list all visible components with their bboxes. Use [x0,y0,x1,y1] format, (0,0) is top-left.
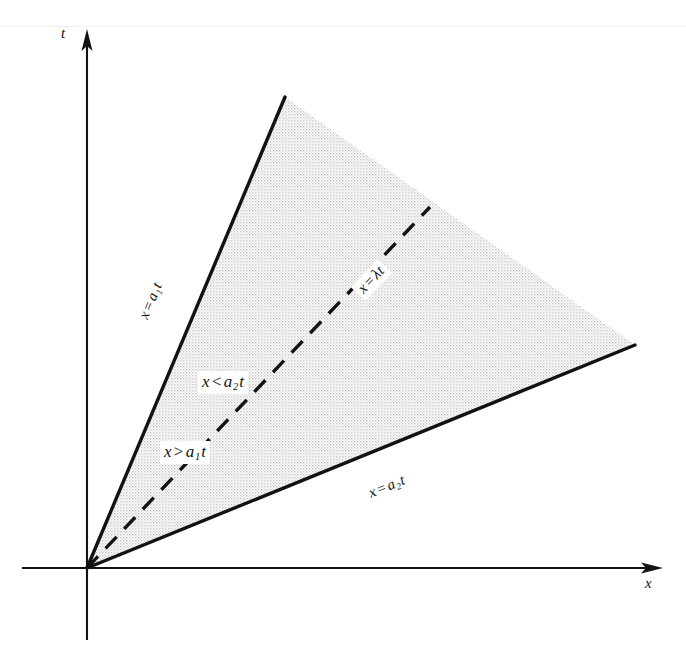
shaded-wedge-region [87,97,635,568]
upper-inequality-coef: a [224,372,233,391]
upper-inequality-lhs: x [202,372,210,391]
upper-inequality-op: < [210,372,224,391]
lower-inequality-lhs: x [164,442,172,461]
t-axis-label: t [61,25,65,42]
diagram-svg [0,0,686,652]
lower-inequality-op: > [172,442,186,461]
lower-inequality-label: x>a1t [160,441,210,464]
lower-inequality-var: t [201,442,206,461]
upper-inequality-var: t [239,372,244,391]
upper-inequality-label: x<a2t [198,371,248,394]
x-axis-label: x [645,575,652,592]
lower-inequality-coef: a [186,442,195,461]
figure-canvas: t x x=a1t x=a2t x=λt x<a2t x>a1t [0,0,686,652]
